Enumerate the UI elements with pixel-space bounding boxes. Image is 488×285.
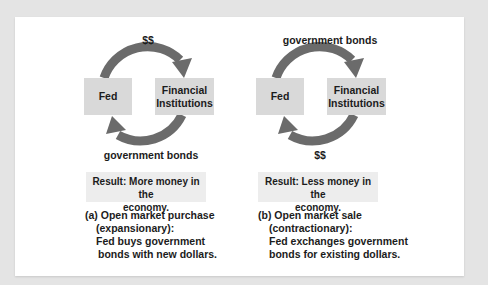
caption-a: (a) Open market purchase (expansionary):… bbox=[85, 209, 217, 261]
result-box-a: Result: More money in the economy. bbox=[86, 172, 206, 202]
caption-a-line4: bonds with new dollars. bbox=[85, 248, 217, 261]
caption-a-line3: Fed buys government bbox=[85, 235, 217, 248]
caption-b: (b) Open market sale (contractionary): F… bbox=[258, 209, 408, 261]
caption-a-line1: (a) Open market purchase bbox=[85, 209, 217, 222]
caption-a-line2: (expansionary): bbox=[85, 222, 217, 235]
caption-b-line4: bonds for existing dollars. bbox=[258, 248, 408, 261]
institutions-label-b-1: Financial bbox=[328, 84, 385, 97]
arrow-bottom-b bbox=[278, 115, 354, 141]
arrow-bottom-a bbox=[106, 115, 182, 141]
result-a-line1: Result: More money in the bbox=[86, 175, 206, 201]
caption-b-line1: (b) Open market sale bbox=[258, 209, 408, 222]
institutions-label-a-2: Institutions bbox=[156, 97, 213, 110]
bottom-arrow-label-b: $$ bbox=[300, 149, 340, 161]
result-b-line1: Result: Less money in the bbox=[258, 175, 378, 201]
caption-b-line2: (contractionary): bbox=[258, 222, 408, 235]
arrow-top-a bbox=[104, 47, 192, 78]
financial-institutions-box-a: Financial Institutions bbox=[155, 78, 214, 115]
caption-b-line3: Fed exchanges government bbox=[258, 235, 408, 248]
result-box-b: Result: Less money in the economy. bbox=[258, 172, 378, 202]
fed-label-b: Fed bbox=[271, 90, 290, 103]
arrow-top-b bbox=[276, 47, 364, 78]
institutions-label-b-2: Institutions bbox=[328, 97, 385, 110]
financial-institutions-box-b: Financial Institutions bbox=[327, 78, 386, 115]
top-arrow-label-b: government bonds bbox=[275, 34, 385, 46]
top-arrow-label-a: $$ bbox=[128, 34, 168, 46]
fed-label-a: Fed bbox=[99, 90, 118, 103]
flow-arrows bbox=[0, 0, 488, 285]
fed-box-a: Fed bbox=[84, 78, 132, 115]
fed-box-b: Fed bbox=[256, 78, 304, 115]
institutions-label-a-1: Financial bbox=[156, 84, 213, 97]
bottom-arrow-label-a: government bonds bbox=[96, 149, 206, 161]
